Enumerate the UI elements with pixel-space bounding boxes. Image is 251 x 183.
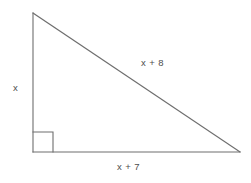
right-triangle-diagram: x + 8 x + 7 x	[0, 0, 251, 183]
hypotenuse-label: x + 8	[141, 57, 164, 68]
base-label: x + 7	[117, 161, 140, 172]
right-angle-marker-icon	[33, 132, 53, 152]
hypotenuse-line	[33, 13, 240, 152]
vertical-leg-label: x	[13, 82, 18, 93]
triangle-svg	[0, 0, 251, 183]
